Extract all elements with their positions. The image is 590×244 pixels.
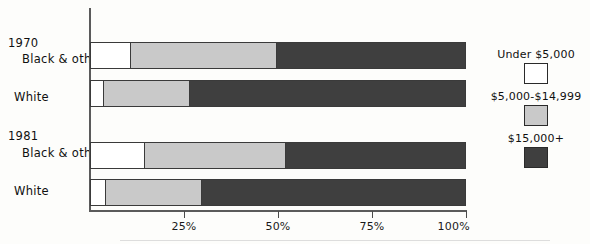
category-label-1970-white: White (14, 90, 49, 104)
x-axis-tick-75 (372, 211, 373, 218)
segment-under-5000 (91, 180, 106, 205)
legend-item-5000-14999: $5,000-$14,999 (484, 90, 588, 126)
bar-1970-black-and-other (90, 42, 466, 69)
stacked-bar-chart: 1970 Black & other White 1981 Black & ot… (0, 0, 590, 244)
segment-15000-plus (190, 81, 465, 106)
bar-1981-black-and-other (90, 142, 466, 169)
legend-swatch-under-5000 (524, 63, 548, 84)
segment-under-5000 (91, 81, 104, 106)
group-label-1981: 1981 (8, 129, 38, 143)
segment-5000-14999 (106, 180, 202, 205)
x-axis-tick-50 (278, 211, 279, 218)
x-axis-tick-100 (466, 211, 467, 218)
legend-item-15000-plus: $15,000+ (484, 132, 588, 168)
bar-1970-white (90, 80, 466, 107)
x-axis-tick-label-100: 100% (438, 220, 470, 233)
category-label-1981-white: White (14, 184, 49, 198)
legend: Under $5,000 $5,000-$14,999 $15,000+ (484, 48, 588, 174)
legend-label-5000-14999: $5,000-$14,999 (484, 90, 588, 103)
page-rule (120, 240, 550, 241)
x-axis-tick-label-75: 75% (359, 220, 384, 233)
segment-5000-14999 (145, 143, 286, 168)
segment-15000-plus (286, 143, 465, 168)
legend-item-under-5000: Under $5,000 (484, 48, 588, 84)
segment-5000-14999 (104, 81, 190, 106)
legend-label-15000-plus: $15,000+ (484, 132, 588, 145)
group-label-1970: 1970 (8, 36, 38, 50)
segment-15000-plus (277, 43, 465, 68)
legend-label-under-5000: Under $5,000 (484, 48, 588, 61)
legend-swatch-5000-14999 (524, 105, 548, 126)
bar-1981-white (90, 179, 466, 206)
x-axis-tick-label-50: 50% (265, 220, 290, 233)
segment-5000-14999 (131, 43, 277, 68)
segment-under-5000 (91, 143, 145, 168)
x-axis-tick-25 (184, 211, 185, 218)
segment-under-5000 (91, 43, 131, 68)
x-axis-tick-label-25: 25% (171, 220, 196, 233)
legend-swatch-15000-plus (524, 147, 548, 168)
segment-15000-plus (202, 180, 465, 205)
